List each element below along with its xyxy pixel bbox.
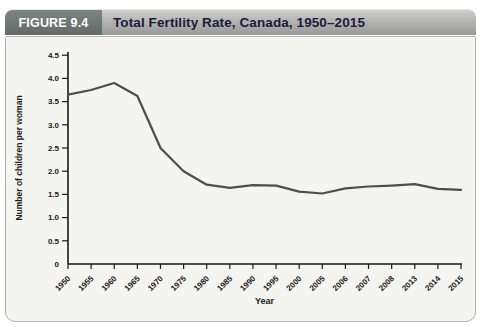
y-tick-label: 3.5 <box>48 97 60 106</box>
x-tick-label: 2006 <box>331 274 350 293</box>
y-tick-label: 0.5 <box>48 237 60 246</box>
y-tick-label: 2.5 <box>48 144 60 153</box>
x-tick-label: 2007 <box>354 274 373 293</box>
x-tick-label: 1990 <box>238 274 257 293</box>
fertility-line-chart: 00.51.01.52.02.53.03.54.04.5195019551960… <box>6 37 475 321</box>
x-tick-label: 2015 <box>446 274 465 293</box>
x-tick-label: 1950 <box>53 274 72 293</box>
x-tick-label: 1960 <box>100 274 119 293</box>
chart-panel: 00.51.01.52.02.53.03.54.04.5195019551960… <box>5 36 476 322</box>
y-tick-label: 0 <box>55 260 60 269</box>
y-tick-label: 4.0 <box>48 74 60 83</box>
x-tick-label: 2014 <box>423 274 442 293</box>
x-axis-title: Year <box>255 296 275 306</box>
x-tick-label: 2008 <box>377 274 396 293</box>
figure-panel: FIGURE 9.4 Total Fertility Rate, Canada,… <box>5 9 476 322</box>
x-tick-label: 1985 <box>215 274 234 293</box>
y-axis-title: Number of children per woman <box>14 95 24 220</box>
x-tick-label: 1955 <box>77 274 96 293</box>
x-tick-label: 1995 <box>262 274 281 293</box>
x-tick-label: 2000 <box>285 274 304 293</box>
figure-title: Total Fertility Rate, Canada, 1950–2015 <box>113 15 365 30</box>
x-tick-label: 1975 <box>169 274 188 293</box>
x-tick-label: 2005 <box>308 274 327 293</box>
x-tick-label: 1970 <box>146 274 165 293</box>
y-tick-label: 4.5 <box>48 51 60 60</box>
x-tick-label: 1965 <box>123 274 142 293</box>
tfr-data-line <box>68 83 461 194</box>
figure-header-bar: FIGURE 9.4 Total Fertility Rate, Canada,… <box>5 9 476 35</box>
x-tick-label: 1980 <box>192 274 211 293</box>
y-tick-label: 1.5 <box>48 190 60 199</box>
figure-number-badge: FIGURE 9.4 <box>5 10 102 35</box>
y-tick-label: 1.0 <box>48 213 60 222</box>
y-tick-label: 3.0 <box>48 121 60 130</box>
x-tick-label: 2013 <box>400 274 419 293</box>
y-tick-label: 2.0 <box>48 167 60 176</box>
